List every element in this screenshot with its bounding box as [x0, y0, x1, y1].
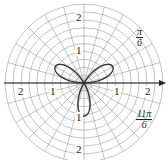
- tick-label-left-1: 1: [49, 86, 57, 97]
- tick-label-top-2: 2: [75, 12, 83, 23]
- angle-denominator: 6: [136, 38, 143, 48]
- angle-label-11pi-over-6: 11π 6: [136, 109, 152, 130]
- tick-label-left-2: 2: [17, 86, 25, 97]
- angle-denominator: 6: [136, 120, 152, 130]
- tick-label-bottom-1: 1: [75, 112, 83, 123]
- polar-graph: [0, 0, 168, 160]
- tick-label-right-1: 1: [113, 86, 121, 97]
- tick-label-bottom-2: 2: [75, 144, 83, 155]
- angle-label-pi-over-6: π 6: [136, 27, 143, 48]
- tick-label-right-2: 2: [144, 86, 152, 97]
- tick-label-top-1: 1: [75, 45, 83, 56]
